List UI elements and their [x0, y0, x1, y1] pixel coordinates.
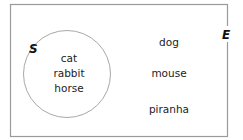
subset-label: S	[29, 42, 38, 56]
subset-element: cat	[61, 52, 77, 64]
venn-diagram: E S cat rabbit horse dog mouse piranha	[0, 0, 243, 140]
subset-element: horse	[54, 82, 83, 94]
universal-set-label: E	[222, 28, 231, 42]
subset-element: rabbit	[53, 67, 84, 79]
universal-element: piranha	[149, 103, 189, 115]
universal-set-rectangle	[11, 5, 228, 137]
universal-element: mouse	[151, 67, 186, 79]
universal-element: dog	[159, 36, 179, 48]
